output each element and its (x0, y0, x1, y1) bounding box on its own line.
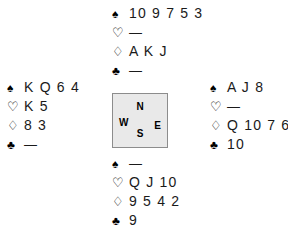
south-clubs-row: ♣ 9 (112, 211, 180, 227)
west-hearts-holding: K 5 (20, 97, 49, 116)
diamond-icon: ♢ (112, 43, 125, 62)
west-diamonds-holding: 8 3 (20, 116, 47, 135)
hand-north: ♠ 10 9 7 5 3 ♡ — ♢ A K J ♣ — (112, 4, 203, 80)
north-hearts-holding: — (125, 23, 142, 42)
club-icon: ♣ (210, 136, 223, 155)
spade-icon: ♠ (112, 155, 125, 174)
west-clubs-holding: — (20, 135, 37, 154)
compass-box: N W E S (112, 93, 168, 148)
hand-east: ♠ A J 8 ♡ — ♢ Q 10 7 6 ♣ 10 (210, 78, 288, 154)
club-icon: ♣ (112, 62, 125, 81)
east-diamonds-holding: Q 10 7 6 (223, 116, 288, 135)
west-clubs-row: ♣ — (7, 135, 80, 154)
east-clubs-holding: 10 (223, 135, 245, 154)
compass-label-west: W (119, 118, 128, 128)
west-spades-holding: K Q 6 4 (20, 78, 80, 97)
bridge-deal-diagram: ♠ 10 9 7 5 3 ♡ — ♢ A K J ♣ — ♠ K Q 6 4 ♡… (0, 0, 288, 227)
spade-icon: ♠ (7, 79, 20, 98)
south-spades-holding: — (125, 154, 142, 173)
club-icon: ♣ (7, 136, 20, 155)
heart-icon: ♡ (112, 174, 125, 193)
north-clubs-row: ♣ — (112, 61, 203, 80)
east-spades-row: ♠ A J 8 (210, 78, 288, 97)
west-diamonds-row: ♢ 8 3 (7, 116, 80, 135)
south-diamonds-holding: 9 5 4 2 (125, 192, 180, 211)
spade-icon: ♠ (210, 79, 223, 98)
diamond-icon: ♢ (7, 117, 20, 136)
south-diamonds-row: ♢ 9 5 4 2 (112, 192, 180, 211)
north-clubs-holding: — (125, 61, 142, 80)
compass-label-north: N (113, 102, 167, 112)
south-clubs-holding: 9 (125, 211, 138, 227)
east-hearts-row: ♡ — (210, 97, 288, 116)
diamond-icon: ♢ (112, 193, 125, 212)
north-spades-holding: 10 9 7 5 3 (125, 4, 203, 23)
hand-west: ♠ K Q 6 4 ♡ K 5 ♢ 8 3 ♣ — (7, 78, 80, 154)
spade-icon: ♠ (112, 5, 125, 24)
north-diamonds-holding: A K J (125, 42, 168, 61)
west-spades-row: ♠ K Q 6 4 (7, 78, 80, 97)
club-icon: ♣ (112, 212, 125, 227)
north-spades-row: ♠ 10 9 7 5 3 (112, 4, 203, 23)
hand-south: ♠ — ♡ Q J 10 ♢ 9 5 4 2 ♣ 9 (112, 154, 180, 227)
heart-icon: ♡ (7, 98, 20, 117)
south-hearts-holding: Q J 10 (125, 173, 177, 192)
north-diamonds-row: ♢ A K J (112, 42, 203, 61)
south-hearts-row: ♡ Q J 10 (112, 173, 180, 192)
north-hearts-row: ♡ — (112, 23, 203, 42)
east-diamonds-row: ♢ Q 10 7 6 (210, 116, 288, 135)
east-hearts-holding: — (223, 97, 240, 116)
east-spades-holding: A J 8 (223, 78, 264, 97)
south-spades-row: ♠ — (112, 154, 180, 173)
heart-icon: ♡ (210, 98, 223, 117)
compass-label-south: S (113, 129, 167, 139)
east-clubs-row: ♣ 10 (210, 135, 288, 154)
diamond-icon: ♢ (210, 117, 223, 136)
west-hearts-row: ♡ K 5 (7, 97, 80, 116)
heart-icon: ♡ (112, 24, 125, 43)
